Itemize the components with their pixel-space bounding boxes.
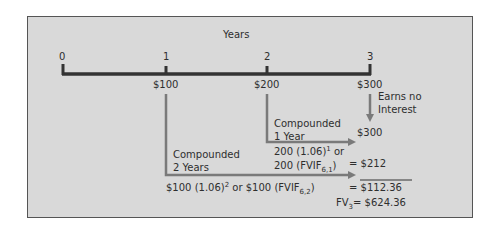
cash-flow-year-2: $200 <box>254 79 279 91</box>
result-300: $300 <box>357 127 382 139</box>
formula-1-year-a: 200 (1.06)1 or <box>274 146 344 158</box>
compounded-2-years-line1: Compounded <box>173 149 240 161</box>
future-value-total: FV3= $624.36 <box>336 197 406 209</box>
cash-flow-year-1: $100 <box>153 79 178 91</box>
earns-no-interest-line2: Interest <box>378 104 417 116</box>
result-212: = $212 <box>349 158 386 170</box>
tick-label-3: 3 <box>367 51 373 63</box>
formula-1-year-b: 200 (FVIF6,1) <box>274 160 337 172</box>
compounded-1-year-line2: 1 Year <box>274 131 305 143</box>
compounded-2-years-line2: 2 Years <box>173 162 209 174</box>
timeline-diagram-lines <box>0 0 500 232</box>
earns-no-interest-line1: Earns no <box>378 91 422 103</box>
tick-label-0: 0 <box>59 51 65 63</box>
compounded-1-year-line1: Compounded <box>274 118 341 130</box>
tick-label-2: 2 <box>264 51 270 63</box>
cash-flow-year-3: $300 <box>357 79 382 91</box>
formula-2-years: $100 (1.06)2 or $100 (FVIF6,2) <box>166 182 315 194</box>
axis-label-years: Years <box>223 29 249 41</box>
tick-label-1: 1 <box>163 51 169 63</box>
result-112-36: = $112.36 <box>349 182 402 194</box>
